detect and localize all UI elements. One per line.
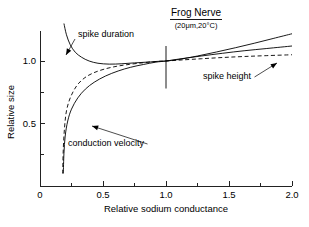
annotation-arrowhead bbox=[270, 63, 277, 68]
x-axis-title: Relative sodium conductance bbox=[104, 203, 228, 214]
y-axis-title: Relative size bbox=[5, 85, 16, 139]
annotation-arrowhead bbox=[92, 126, 99, 131]
x-axis-tick-label: 1.5 bbox=[222, 189, 235, 200]
y-axis-tick-label: 1.0 bbox=[23, 55, 36, 66]
chart-svg: Frog Nerve (20μm,20°C) 00.51.01.52.00.51… bbox=[0, 0, 309, 227]
annotation-label-spike-height: spike height bbox=[203, 71, 252, 81]
series-curve-spike-height bbox=[63, 55, 292, 174]
chart-title-block: Frog Nerve (20μm,20°C) bbox=[170, 7, 222, 30]
chart-tick-labels: 00.51.01.52.00.51.0 bbox=[23, 55, 299, 200]
chart-figure: Frog Nerve (20μm,20°C) 00.51.01.52.00.51… bbox=[0, 0, 309, 227]
chart-subtitle: (20μm,20°C) bbox=[175, 21, 218, 30]
x-axis-tick-label: 2.0 bbox=[285, 189, 298, 200]
x-axis-tick-label: 0 bbox=[37, 189, 42, 200]
page-title: Frog Nerve bbox=[171, 7, 221, 18]
x-axis-tick-label: 1.0 bbox=[159, 189, 172, 200]
chart-annotations: spike durationconduction velocityspike h… bbox=[66, 29, 277, 148]
x-axis-tick-label: 0.5 bbox=[96, 189, 109, 200]
series-curve-conduction-velocity bbox=[63, 46, 292, 174]
chart-series bbox=[63, 24, 292, 174]
annotation-label-spike-duration: spike duration bbox=[78, 29, 134, 39]
annotation-arrowhead bbox=[66, 48, 71, 55]
y-axis-tick-label: 0.5 bbox=[23, 118, 36, 129]
